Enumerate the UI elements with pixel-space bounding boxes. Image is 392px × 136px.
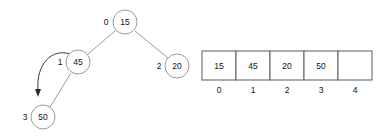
tree-node-root[interactable]: 15 0 xyxy=(104,10,137,34)
node-index-left: 1 xyxy=(58,57,63,67)
node-index-leaf: 3 xyxy=(23,112,28,122)
array-cell-4[interactable] xyxy=(338,51,372,80)
arrow-head-icon xyxy=(35,89,41,97)
node-value-left: 45 xyxy=(73,57,83,67)
diagram-canvas: 15 0 45 1 20 2 50 3 15 0 45 1 20 2 xyxy=(0,0,392,136)
tree-node-right[interactable]: 20 2 xyxy=(157,54,189,78)
node-index-root: 0 xyxy=(104,17,109,27)
array-cell-index-3: 3 xyxy=(319,85,324,95)
tree-node-left[interactable]: 45 1 xyxy=(58,50,90,74)
array-cell-value-1: 45 xyxy=(248,61,258,71)
tree-edge-left-to-child xyxy=(50,73,71,107)
insert-pointer-arrow-group xyxy=(35,53,70,97)
array-representation: 15 0 45 1 20 2 50 3 4 xyxy=(202,51,372,95)
array-cell-value-3: 50 xyxy=(316,61,326,71)
node-index-right: 2 xyxy=(157,61,162,71)
array-cell-index-0: 0 xyxy=(217,85,222,95)
tree-edge-root-to-right xyxy=(135,31,168,58)
node-value-leaf: 50 xyxy=(38,112,48,122)
insert-pointer-arrow xyxy=(38,53,70,90)
tree-edge-root-to-left xyxy=(88,31,115,54)
node-value-root: 15 xyxy=(120,17,130,27)
array-cell-index-1: 1 xyxy=(251,85,256,95)
node-value-right: 20 xyxy=(172,61,182,71)
array-cell-index-4: 4 xyxy=(353,85,358,95)
array-cell-value-0: 15 xyxy=(214,61,224,71)
binary-tree-array-diagram: 15 0 45 1 20 2 50 3 15 0 45 1 20 2 xyxy=(0,0,392,136)
tree-node-leaf[interactable]: 50 3 xyxy=(23,105,55,129)
array-cell-value-2: 20 xyxy=(282,61,292,71)
array-cell-index-2: 2 xyxy=(285,85,290,95)
